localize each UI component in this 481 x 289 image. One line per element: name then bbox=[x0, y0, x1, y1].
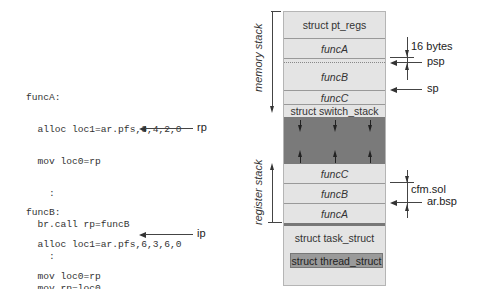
segment-mem-funcA: funcA bbox=[284, 39, 385, 58]
ip-label: ip bbox=[197, 227, 206, 239]
psp-label: psp bbox=[427, 55, 445, 67]
segment-pt-regs: struct pt_regs bbox=[284, 12, 385, 38]
sp-arrow-line bbox=[396, 89, 422, 90]
up-arrowhead-icon bbox=[333, 150, 337, 157]
stack-diagram: struct pt_regs funcA funcB funcC struct … bbox=[283, 11, 386, 286]
cfm-sol-label: cfm.sol bbox=[411, 183, 446, 195]
segment-mem-funcB: funcB bbox=[284, 63, 385, 90]
up-arrow-line bbox=[335, 157, 336, 163]
bytes16-dimension-line bbox=[407, 37, 408, 80]
code-line: mov loc0=rp bbox=[26, 272, 181, 283]
ar-bsp-arrow-line bbox=[396, 202, 422, 203]
up-arrowhead-icon bbox=[298, 150, 302, 157]
down-arrowhead-icon bbox=[298, 125, 302, 132]
down-arrowhead-icon bbox=[333, 125, 337, 132]
rp-arrowhead-icon bbox=[139, 126, 146, 132]
code-line: mov loc0=rp bbox=[26, 157, 181, 168]
divider bbox=[284, 58, 385, 59]
register-stack-arrowhead-icon bbox=[270, 163, 274, 170]
segment-switch-stack: struct switch_stack bbox=[284, 105, 385, 117]
bytes16-arrowhead-icon bbox=[405, 63, 409, 70]
up-arrowhead-icon bbox=[368, 150, 372, 157]
segment-reg-funcB: funcB bbox=[284, 184, 385, 203]
memory-stack-arrow-line bbox=[272, 11, 273, 107]
sp-arrowhead-icon bbox=[390, 87, 397, 93]
bytes16-tick bbox=[390, 57, 414, 58]
code-line: funcA: bbox=[26, 93, 181, 104]
segment-reg-funcA: funcA bbox=[284, 204, 385, 223]
up-arrow-line bbox=[300, 157, 301, 163]
code-line: alloc loc1=ar.pfs,6,3,6,0 bbox=[26, 240, 181, 251]
rp-label: rp bbox=[197, 121, 207, 133]
register-stack-bottom-tick bbox=[268, 222, 282, 223]
ip-arrow-line bbox=[145, 234, 193, 235]
memory-stack-arrowhead-icon bbox=[270, 106, 274, 113]
segment-mem-funcC: funcC bbox=[284, 91, 385, 104]
bytes16-arrowhead-icon bbox=[405, 50, 409, 57]
thick-divider bbox=[284, 223, 385, 226]
ar-bsp-label: ar.bsp bbox=[427, 195, 457, 207]
psp-arrowhead-icon bbox=[390, 60, 397, 66]
segment-thread-struct: struct thread_struct bbox=[290, 253, 383, 268]
bytes16-label: 16 bytes bbox=[411, 40, 453, 52]
down-arrowhead-icon bbox=[368, 125, 372, 132]
register-stack-arrow-line bbox=[272, 170, 273, 222]
code-funcB: funcB: alloc loc1=ar.pfs,6,3,6,0 mov loc… bbox=[26, 187, 181, 289]
register-stack-label: register stack bbox=[252, 160, 264, 225]
segment-task-struct: struct task_struct bbox=[284, 228, 385, 248]
psp-arrow-line bbox=[396, 62, 422, 63]
memory-stack-label: memory stack bbox=[252, 24, 264, 92]
ip-arrowhead-icon bbox=[139, 232, 146, 238]
rp-arrow-line bbox=[145, 128, 193, 129]
code-line: funcB: bbox=[26, 208, 181, 219]
ar-bsp-arrowhead-icon bbox=[390, 200, 397, 206]
code-line: alloc loc1=ar.pfs,3,4,2,0 bbox=[26, 125, 181, 136]
up-arrow-line bbox=[370, 157, 371, 163]
cfm-sol-arrowhead-icon bbox=[405, 204, 409, 211]
sp-label: sp bbox=[427, 82, 439, 94]
segment-reg-funcC: funcC bbox=[284, 164, 385, 183]
